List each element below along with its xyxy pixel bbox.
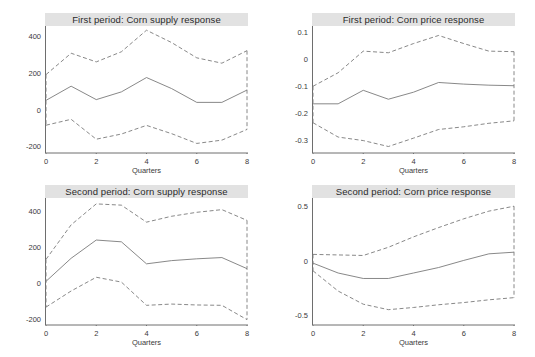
y-tick-label: -0.1 — [272, 82, 308, 91]
panel-title-first-period-corn-supply: First period: Corn supply response — [45, 13, 248, 26]
y-tick-label: 200 — [5, 69, 41, 78]
y-tick-label: 0.5 — [272, 202, 308, 211]
plot-area-first-period-corn-price — [312, 26, 515, 154]
x-tick-label: 6 — [452, 329, 476, 338]
y-tick-label: 0 — [5, 106, 41, 115]
y-tick-label: -0.3 — [272, 136, 308, 145]
x-tick-label: 2 — [351, 157, 375, 166]
series-line — [46, 204, 247, 259]
x-tick-label: 8 — [502, 157, 526, 166]
series-line — [313, 206, 514, 255]
y-tick-label: -0.2 — [272, 109, 308, 118]
plot-area-second-period-corn-supply — [45, 198, 248, 326]
x-tick-label: 2 — [351, 329, 375, 338]
y-tick-label: 0 — [272, 55, 308, 64]
x-tick-label: 8 — [502, 329, 526, 338]
x-tick-label: 0 — [34, 157, 58, 166]
y-tick-label: -200 — [5, 142, 41, 151]
y-tick-label: 400 — [5, 207, 41, 216]
x-axis-label: Quarters — [312, 166, 515, 175]
x-tick-label: 4 — [135, 329, 159, 338]
panel-title-second-period-corn-price: Second period: Corn price response — [312, 185, 515, 198]
series-line — [46, 277, 247, 319]
axis-spines — [313, 198, 516, 325]
y-tick-label: 0 — [5, 279, 41, 288]
series-line — [46, 119, 247, 143]
series-line — [313, 271, 514, 310]
chart-first-period-corn-price — [312, 26, 515, 154]
x-tick-label: 2 — [84, 329, 108, 338]
x-tick-label: 4 — [402, 329, 426, 338]
plot-area-first-period-corn-supply — [45, 26, 248, 154]
y-tick-label: -0.5 — [272, 311, 308, 320]
plot-area-second-period-corn-price — [312, 198, 515, 326]
x-tick-label: 6 — [452, 157, 476, 166]
x-axis-label: Quarters — [45, 166, 248, 175]
series-line — [46, 30, 247, 74]
x-tick-label: 0 — [301, 329, 325, 338]
chart-first-period-corn-supply — [45, 26, 248, 154]
chart-second-period-corn-supply — [45, 198, 248, 326]
series-line — [313, 82, 514, 103]
axis-spines — [46, 26, 249, 153]
y-tick-label: 0 — [272, 257, 308, 266]
x-tick-label: 8 — [235, 157, 259, 166]
x-tick-label: 0 — [301, 157, 325, 166]
x-tick-label: 0 — [34, 329, 58, 338]
y-tick-label: 200 — [5, 243, 41, 252]
y-tick-label: 0.1 — [272, 28, 308, 37]
panel-title-second-period-corn-supply: Second period: Corn supply response — [45, 185, 248, 198]
axis-spines — [313, 26, 516, 153]
y-tick-label: -200 — [5, 315, 41, 324]
x-tick-label: 6 — [185, 157, 209, 166]
x-axis-label: Quarters — [45, 338, 248, 347]
x-tick-label: 4 — [402, 157, 426, 166]
series-line — [313, 252, 514, 278]
series-line — [313, 35, 514, 86]
impulse-response-figure: First period: Corn supply response -2000… — [0, 0, 535, 357]
x-tick-label: 4 — [135, 157, 159, 166]
x-tick-label: 6 — [185, 329, 209, 338]
panel-title-first-period-corn-price: First period: Corn price response — [312, 13, 515, 26]
series-line — [46, 78, 247, 103]
chart-second-period-corn-price — [312, 198, 515, 326]
x-tick-label: 8 — [235, 329, 259, 338]
x-tick-label: 2 — [84, 157, 108, 166]
axis-spines — [46, 198, 249, 325]
series-line — [313, 121, 514, 147]
y-tick-label: 400 — [5, 32, 41, 41]
series-line — [46, 240, 247, 281]
x-axis-label: Quarters — [312, 338, 515, 347]
